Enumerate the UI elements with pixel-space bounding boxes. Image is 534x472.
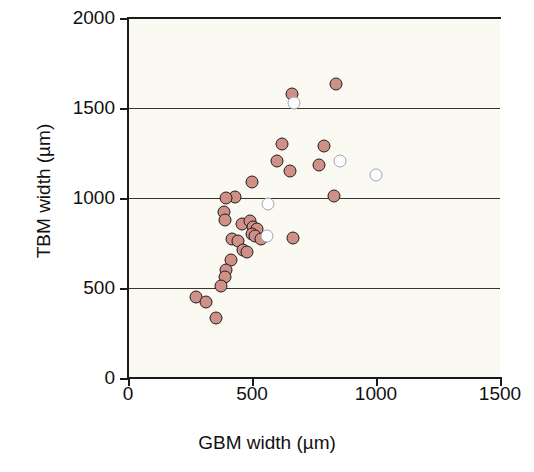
x-tick-label-0: 0 xyxy=(123,384,134,403)
data-point-open xyxy=(334,155,347,168)
data-point-filled xyxy=(284,165,297,178)
plot-frame-top-line xyxy=(128,17,501,19)
data-point-open xyxy=(288,96,301,109)
y-tick-label-2000: 2000 xyxy=(73,8,115,27)
data-point-open xyxy=(260,229,273,242)
data-point-filled xyxy=(330,77,343,90)
data-point-filled xyxy=(246,175,259,188)
data-point-filled xyxy=(215,280,228,293)
data-point-filled xyxy=(220,192,233,205)
gridline-y-500 xyxy=(128,288,500,289)
y-tick-label-500: 500 xyxy=(83,278,115,297)
figure-caption xyxy=(0,462,534,472)
y-tick-500 xyxy=(120,288,129,290)
data-point-filled xyxy=(327,190,340,203)
y-tick-1000 xyxy=(120,198,129,200)
x-axis-title: GBM width (µm) xyxy=(0,432,534,454)
gridline-y-1000 xyxy=(128,198,500,199)
data-point-filled xyxy=(241,246,254,259)
data-point-filled xyxy=(270,155,283,168)
x-tick-label-500: 500 xyxy=(236,384,268,403)
scatter-plot-figure: 0500100015002000 050010001500 TBM width … xyxy=(0,0,534,472)
y-tick-1500 xyxy=(120,108,129,110)
data-point-open xyxy=(262,198,275,211)
x-tick-label-1500: 1500 xyxy=(479,384,521,403)
y-tick-label-1500: 1500 xyxy=(73,98,115,117)
y-tick-label-1000: 1000 xyxy=(73,188,115,207)
data-point-filled xyxy=(286,231,299,244)
data-point-filled xyxy=(218,213,231,226)
y-axis-title: TBM width (µm) xyxy=(33,51,55,331)
x-tick-label-1000: 1000 xyxy=(355,384,397,403)
data-point-filled xyxy=(210,311,223,324)
gridline-y-1500 xyxy=(128,108,500,109)
data-point-open xyxy=(370,168,383,181)
data-point-filled xyxy=(313,158,326,171)
data-point-filled xyxy=(275,138,288,151)
data-point-filled xyxy=(317,139,330,152)
y-tick-label-0: 0 xyxy=(104,368,115,387)
x-axis-line xyxy=(128,377,501,379)
data-point-filled xyxy=(200,295,213,308)
y-tick-2000 xyxy=(120,18,129,20)
